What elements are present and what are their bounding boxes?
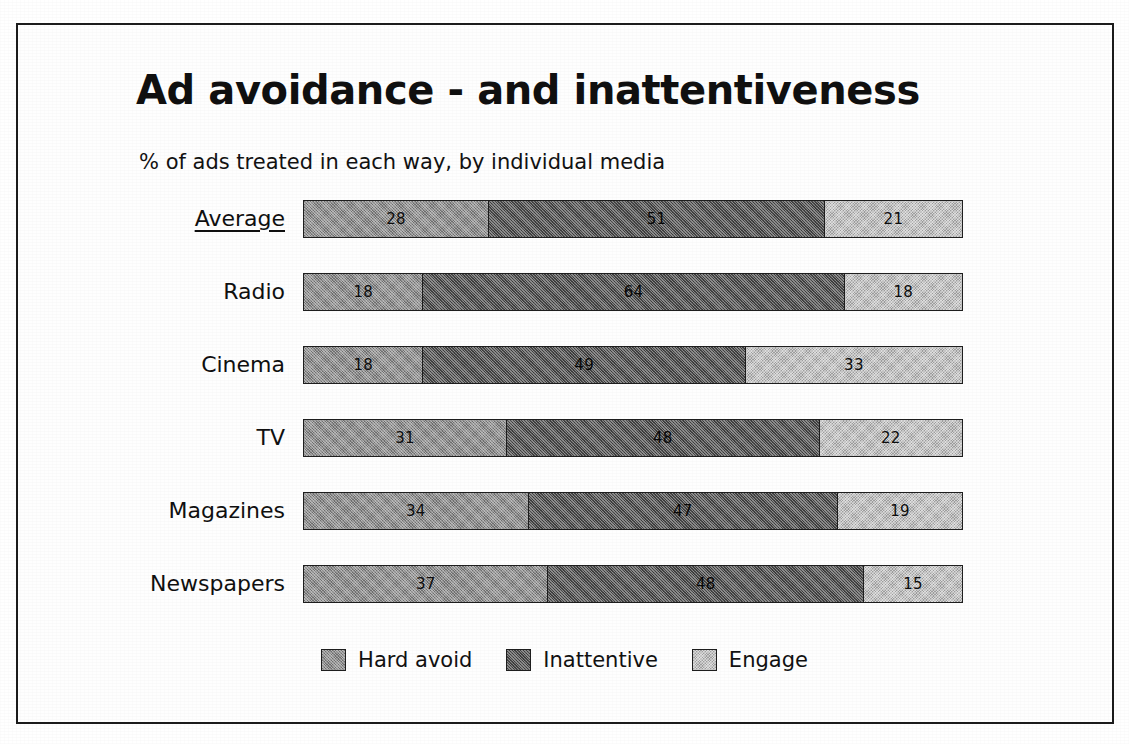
dither-texture bbox=[322, 650, 345, 670]
bar-value-hard-avoid: 31 bbox=[395, 429, 415, 447]
bar-segment-hard-avoid[interactable]: 31 bbox=[304, 420, 506, 456]
bar-segment-engage[interactable]: 22 bbox=[819, 420, 962, 456]
bar-value-engage: 15 bbox=[903, 575, 923, 593]
bar-value-hard-avoid: 34 bbox=[406, 502, 426, 520]
legend-swatch-hard-avoid bbox=[321, 649, 346, 671]
bar-row-newspapers: Newspapers 37 48 15 bbox=[0, 551, 1129, 624]
bar-segment-hard-avoid[interactable]: 37 bbox=[304, 566, 547, 602]
dither-texture bbox=[693, 650, 716, 670]
bar-value-inattentive: 49 bbox=[574, 356, 594, 374]
bar-segment-inattentive[interactable]: 47 bbox=[528, 493, 837, 529]
bar-segment-hard-avoid[interactable]: 18 bbox=[304, 274, 422, 310]
bar-value-inattentive: 47 bbox=[673, 502, 693, 520]
bar-row-tv: TV 31 48 22 bbox=[0, 405, 1129, 478]
legend-swatch-engage bbox=[692, 649, 717, 671]
bar-row-magazines: Magazines 34 47 19 bbox=[0, 478, 1129, 551]
stacked-bar-magazines: 34 47 19 bbox=[303, 492, 963, 530]
bar-segment-inattentive[interactable]: 48 bbox=[547, 566, 863, 602]
bar-value-hard-avoid: 18 bbox=[353, 283, 373, 301]
bar-value-inattentive: 64 bbox=[624, 283, 644, 301]
row-label-average: Average bbox=[0, 206, 285, 231]
bar-value-engage: 22 bbox=[881, 429, 901, 447]
chart-legend: Hard avoid Inattentive Engage bbox=[0, 648, 1129, 672]
legend-label-hard-avoid: Hard avoid bbox=[358, 648, 472, 672]
legend-item-hard-avoid[interactable]: Hard avoid bbox=[321, 648, 472, 672]
chart-title: Ad avoidance - and inattentiveness bbox=[136, 67, 920, 113]
bar-segment-engage[interactable]: 15 bbox=[863, 566, 962, 602]
bar-row-average: Average 28 51 21 bbox=[0, 186, 1129, 259]
bar-segment-inattentive[interactable]: 64 bbox=[422, 274, 843, 310]
bar-value-inattentive: 51 bbox=[647, 210, 667, 228]
stacked-bar-tv: 31 48 22 bbox=[303, 419, 963, 457]
row-label-tv: TV bbox=[0, 425, 285, 450]
bar-row-cinema: Cinema 18 49 33 bbox=[0, 332, 1129, 405]
bar-segment-inattentive[interactable]: 48 bbox=[506, 420, 819, 456]
bar-value-engage: 21 bbox=[884, 210, 904, 228]
bar-value-engage: 19 bbox=[890, 502, 910, 520]
bar-value-hard-avoid: 37 bbox=[416, 575, 436, 593]
bar-value-engage: 33 bbox=[844, 356, 864, 374]
stacked-bar-cinema: 18 49 33 bbox=[303, 346, 963, 384]
bar-segment-engage[interactable]: 19 bbox=[837, 493, 962, 529]
legend-item-engage[interactable]: Engage bbox=[692, 648, 808, 672]
legend-label-engage: Engage bbox=[729, 648, 808, 672]
bar-chart-plot-area: Average 28 51 21 Radio 18 bbox=[0, 186, 1129, 624]
legend-label-inattentive: Inattentive bbox=[543, 648, 658, 672]
bar-value-hard-avoid: 18 bbox=[353, 356, 373, 374]
row-label-cinema: Cinema bbox=[0, 352, 285, 377]
row-label-radio: Radio bbox=[0, 279, 285, 304]
bar-segment-inattentive[interactable]: 51 bbox=[488, 201, 824, 237]
bar-segment-engage[interactable]: 21 bbox=[824, 201, 962, 237]
stacked-bar-average: 28 51 21 bbox=[303, 200, 963, 238]
bar-segment-hard-avoid[interactable]: 18 bbox=[304, 347, 422, 383]
bar-segment-hard-avoid[interactable]: 34 bbox=[304, 493, 528, 529]
stacked-bar-newspapers: 37 48 15 bbox=[303, 565, 963, 603]
bar-segment-inattentive[interactable]: 49 bbox=[422, 347, 744, 383]
bar-segment-engage[interactable]: 33 bbox=[745, 347, 962, 383]
bar-segment-hard-avoid[interactable]: 28 bbox=[304, 201, 488, 237]
bar-value-inattentive: 48 bbox=[696, 575, 716, 593]
bar-row-radio: Radio 18 64 18 bbox=[0, 259, 1129, 332]
legend-item-inattentive[interactable]: Inattentive bbox=[506, 648, 658, 672]
dither-texture bbox=[507, 650, 530, 670]
bar-value-inattentive: 48 bbox=[653, 429, 673, 447]
row-label-magazines: Magazines bbox=[0, 498, 285, 523]
bar-segment-engage[interactable]: 18 bbox=[844, 274, 962, 310]
bar-value-engage: 18 bbox=[893, 283, 913, 301]
legend-swatch-inattentive bbox=[506, 649, 531, 671]
row-label-newspapers: Newspapers bbox=[0, 571, 285, 596]
chart-subtitle: % of ads treated in each way, by individ… bbox=[139, 150, 665, 174]
bar-value-hard-avoid: 28 bbox=[386, 210, 406, 228]
stacked-bar-radio: 18 64 18 bbox=[303, 273, 963, 311]
